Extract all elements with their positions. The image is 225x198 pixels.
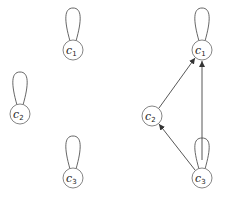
self-loop-c2 xyxy=(13,72,27,105)
self-loop-c1 xyxy=(195,8,209,41)
left-graph: c1 c2 c3 xyxy=(10,8,83,188)
right-graph: c1 c2 c3 xyxy=(142,8,212,188)
edge-c3-c2 xyxy=(159,124,195,170)
diagram-canvas: c1 c2 c3 c1 c2 c3 xyxy=(0,0,225,198)
self-loop-c1 xyxy=(66,8,80,41)
self-loop-c3 xyxy=(66,136,80,169)
edge-c2-c1 xyxy=(159,58,195,108)
